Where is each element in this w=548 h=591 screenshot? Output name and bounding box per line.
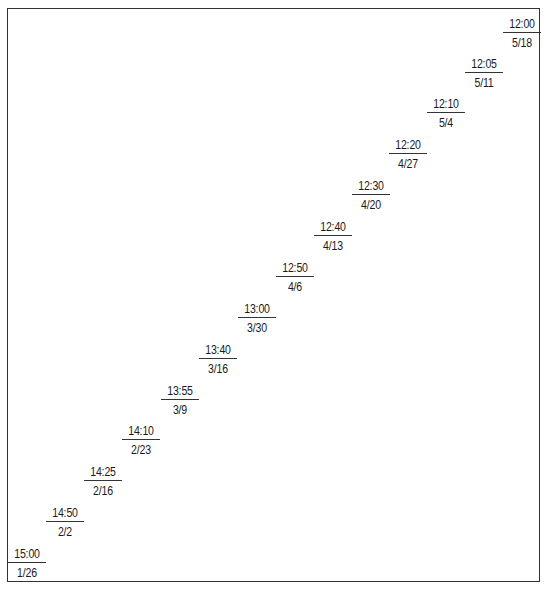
entry-date: 4/13	[316, 239, 349, 253]
entry-divider	[427, 112, 465, 113]
entry-time: 13:55	[163, 384, 196, 398]
schedule-entry: 12:00 5/18	[503, 17, 541, 53]
entry-time: 12:30	[354, 179, 387, 193]
entry-date: 2/16	[86, 484, 119, 498]
schedule-entry: 12:20 4/27	[389, 138, 427, 174]
entry-divider	[503, 32, 541, 33]
entry-date: 3/16	[201, 362, 234, 376]
entry-divider	[389, 153, 427, 154]
entry-time: 12:10	[429, 97, 462, 111]
schedule-entry: 14:10 2/23	[122, 424, 160, 460]
entry-divider	[276, 276, 314, 277]
entry-date: 2/23	[124, 443, 157, 457]
entry-date: 5/4	[429, 116, 462, 130]
entry-time: 13:40	[201, 343, 234, 357]
entry-date: 4/6	[278, 280, 311, 294]
entry-time: 12:50	[278, 261, 311, 275]
entry-date: 5/11	[467, 76, 500, 90]
entry-date: 4/27	[391, 157, 424, 171]
schedule-entry: 15:00 1/26	[8, 547, 46, 583]
schedule-entry: 13:55 3/9	[161, 384, 199, 420]
entry-divider	[46, 521, 84, 522]
entry-time: 14:10	[124, 424, 157, 438]
entry-divider	[199, 358, 237, 359]
schedule-entry: 13:00 3/30	[238, 302, 276, 338]
entry-time: 12:05	[467, 57, 500, 71]
entry-divider	[352, 194, 390, 195]
schedule-entry: 12:10 5/4	[427, 97, 465, 133]
entry-divider	[161, 399, 199, 400]
entry-divider	[314, 235, 352, 236]
entry-date: 4/20	[354, 198, 387, 212]
entry-date: 5/18	[505, 36, 538, 50]
schedule-entry: 12:30 4/20	[352, 179, 390, 215]
entry-date: 3/9	[163, 403, 196, 417]
entry-date: 2/2	[48, 525, 81, 539]
entry-date: 3/30	[240, 321, 273, 335]
schedule-entry: 12:40 4/13	[314, 220, 352, 256]
entry-divider	[8, 562, 46, 563]
schedule-entry: 14:25 2/16	[84, 465, 122, 501]
entry-time: 12:00	[505, 17, 538, 31]
schedule-entry: 12:50 4/6	[276, 261, 314, 297]
entry-divider	[465, 72, 503, 73]
entry-time: 12:20	[391, 138, 424, 152]
entry-time: 13:00	[240, 302, 273, 316]
schedule-entry: 14:50 2/2	[46, 506, 84, 542]
entry-divider	[84, 480, 122, 481]
entry-date: 1/26	[10, 566, 43, 580]
entry-time: 15:00	[10, 547, 43, 561]
entry-divider	[238, 317, 276, 318]
schedule-entry: 13:40 3/16	[199, 343, 237, 379]
entry-time: 14:50	[48, 506, 81, 520]
entry-time: 12:40	[316, 220, 349, 234]
schedule-entry: 12:05 5/11	[465, 57, 503, 93]
entry-time: 14:25	[86, 465, 119, 479]
entry-divider	[122, 439, 160, 440]
